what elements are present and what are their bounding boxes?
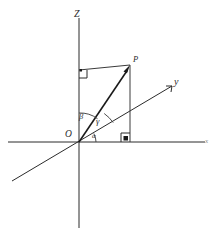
y-axis-label: y (173, 76, 179, 87)
x-axis-label: x (204, 137, 209, 145)
right-angle-dot-x (124, 136, 129, 141)
angle-label-gamma: γ (96, 116, 100, 126)
origin-label: O (65, 129, 72, 139)
vector-op-arrowhead (124, 65, 131, 73)
angle-arc-gamma (104, 114, 113, 123)
vector-op (79, 70, 128, 142)
p-to-z-axis-line (79, 65, 130, 70)
point-p-label: P (132, 54, 138, 64)
angle-label-alpha: α (92, 132, 96, 140)
diagram-canvas: Z y x O P β γ α (0, 0, 216, 236)
angle-label-beta: β (78, 111, 84, 121)
direction-angles-diagram: Z y x O P β γ α (0, 0, 216, 236)
right-angle-dot-z (80, 69, 83, 72)
z-axis-label: Z (74, 8, 80, 19)
